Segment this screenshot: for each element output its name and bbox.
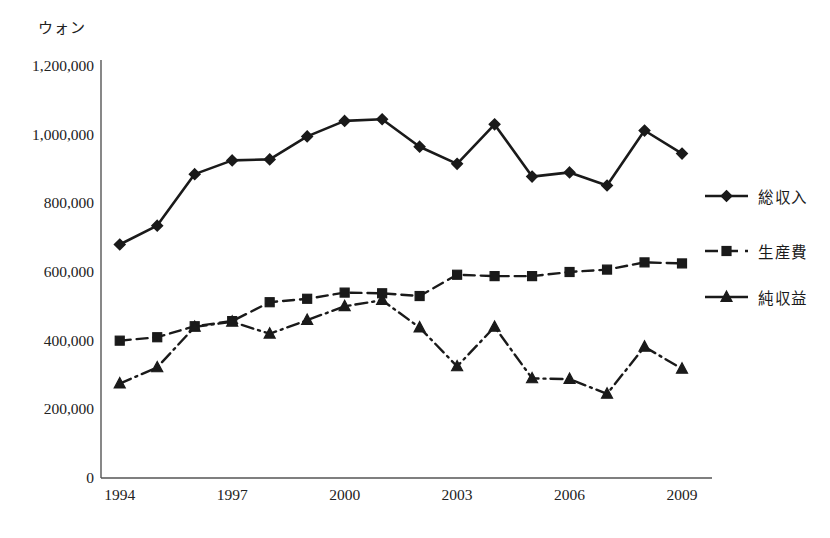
legend-item-2[interactable]: [705, 247, 748, 256]
legend-item-1[interactable]: [705, 191, 748, 201]
series-line: [120, 300, 682, 394]
series-line: [120, 262, 682, 340]
data-point-square: [565, 268, 574, 277]
data-point-square: [678, 259, 687, 268]
data-point-square: [340, 288, 349, 297]
axis-lines: [101, 60, 712, 478]
data-point-diamond: [339, 116, 349, 126]
data-point-triangle: [489, 321, 500, 331]
data-point-triangle: [152, 361, 163, 371]
data-point-square: [603, 265, 612, 274]
data-point-square: [722, 247, 731, 256]
data-point-square: [415, 292, 424, 301]
data-point-diamond: [115, 239, 125, 249]
data-point-triangle: [676, 363, 687, 373]
data-point-square: [640, 258, 649, 267]
data-point-diamond: [564, 167, 574, 177]
data-point-square: [303, 294, 312, 303]
plot-area: [0, 0, 830, 538]
data-point-square: [528, 272, 537, 281]
data-point-square: [490, 272, 499, 281]
data-point-triangle: [639, 341, 650, 351]
data-point-square: [265, 298, 274, 307]
series-line: [120, 119, 682, 244]
data-point-triangle: [564, 373, 575, 383]
line-chart: ウォン 0200,000400,000600,000800,0001,000,0…: [0, 0, 830, 538]
data-point-square: [115, 336, 124, 345]
series-1: [115, 114, 688, 250]
data-point-square: [453, 270, 462, 279]
series-2: [115, 258, 686, 345]
data-point-diamond: [227, 155, 237, 165]
data-point-square: [153, 333, 162, 342]
series-3: [114, 294, 687, 398]
legend-item-3[interactable]: [705, 291, 748, 301]
data-point-triangle: [414, 322, 425, 332]
data-point-diamond: [721, 191, 731, 201]
